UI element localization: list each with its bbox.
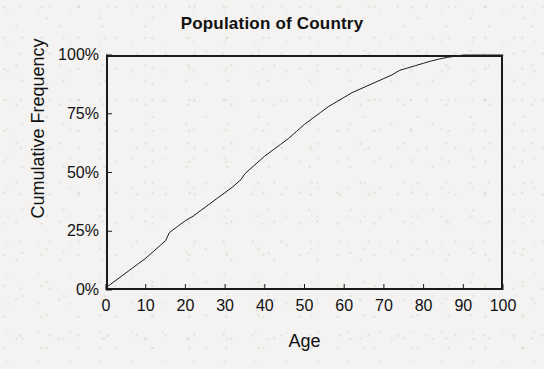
y-axis-title: Cumulative Frequency [28,19,49,239]
cumulative-frequency-line-chart [106,55,503,290]
plot-area: 0%25%50%75%100% 0102030405060708090100 [106,55,503,290]
axis-ticks-group [106,55,503,290]
x-axis-tick-label: 0 [102,297,111,315]
x-axis-tick-label: 10 [137,297,155,315]
x-axis-title: Age [106,331,503,352]
x-axis-tick-label: 30 [216,297,234,315]
x-axis-tick-label: 40 [256,297,274,315]
y-axis-tick-label: 100% [58,46,99,64]
x-axis-tick-label: 50 [296,297,314,315]
chart-figure: Population of Country Cumulative Frequen… [0,0,544,369]
x-axis-tick-label: 100 [490,297,517,315]
x-axis-tick-label: 60 [335,297,353,315]
x-axis-tick-label: 80 [415,297,433,315]
chart-title: Population of Country [0,14,544,34]
x-axis-tick-label: 90 [454,297,472,315]
y-axis-tick-label: 50% [67,164,99,182]
y-axis-tick-label: 25% [67,222,99,240]
y-axis-tick-label: 75% [67,105,99,123]
y-axis-tick-label: 0% [76,281,99,299]
series-line-cumulative-frequency [106,55,503,288]
x-axis-tick-label: 20 [176,297,194,315]
x-axis-tick-label: 70 [375,297,393,315]
